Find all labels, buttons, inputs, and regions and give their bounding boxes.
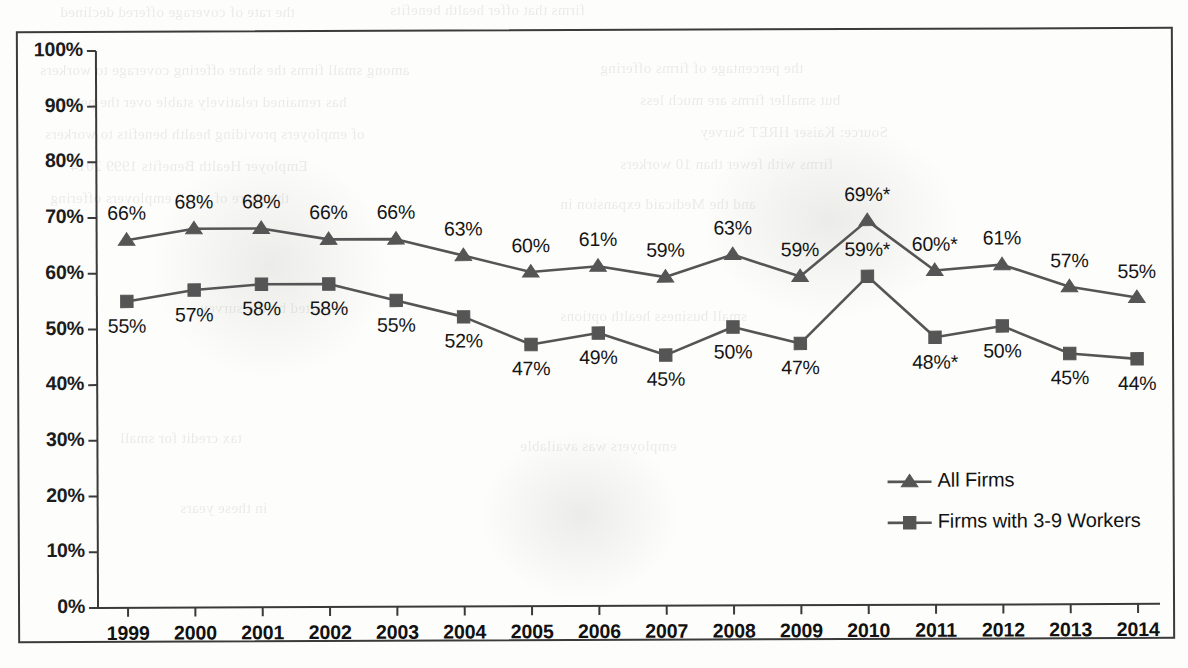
data-point-label: 60% [493, 234, 569, 257]
data-point-label: 63% [425, 217, 501, 240]
x-axis-label: 2009 [764, 619, 838, 642]
x-axis-label: 2002 [293, 621, 367, 644]
data-point-marker [994, 257, 1011, 270]
data-point-label: 47% [493, 357, 569, 380]
data-point-marker [1131, 353, 1143, 365]
y-axis-label: 50% [4, 316, 84, 339]
legend-label-2: Firms with 3-9 Workers [938, 509, 1141, 533]
data-point-label: 68% [156, 191, 232, 214]
data-point-label: 50% [695, 340, 771, 363]
x-axis-label: 2011 [899, 619, 973, 642]
data-point-marker [188, 284, 200, 296]
data-point-label: 60%* [897, 232, 973, 255]
data-point-label: 44% [1099, 372, 1175, 395]
data-point-label: 68% [223, 190, 299, 213]
data-point-label: 59% [627, 239, 703, 262]
legend-item-1 [888, 474, 932, 487]
x-axis-label: 2014 [1101, 618, 1175, 641]
data-point-marker [592, 327, 604, 339]
data-point-label: 58% [291, 297, 367, 320]
data-point-label: 59%* [829, 238, 905, 261]
x-axis-label: 2008 [697, 619, 771, 642]
data-point-label: 57% [156, 303, 232, 326]
data-point-marker [590, 259, 607, 272]
data-point-label: 66% [358, 201, 434, 224]
x-axis-label: 2012 [966, 618, 1040, 641]
data-point-marker [457, 311, 469, 323]
data-point-marker [255, 278, 267, 290]
data-point-marker [727, 321, 739, 333]
data-point-label: 59% [762, 238, 838, 261]
x-axis-label: 2006 [562, 620, 636, 643]
y-axis-label: 70% [3, 205, 83, 228]
data-point-marker [1064, 347, 1076, 359]
data-point-label: 45% [628, 368, 704, 391]
data-point-marker [660, 349, 672, 361]
y-axis-label: 30% [4, 428, 84, 451]
x-axis-label: 2000 [158, 621, 232, 644]
data-point-marker [859, 213, 876, 226]
data-point-marker [390, 294, 402, 306]
y-axis-label: 90% [3, 94, 83, 117]
data-point-label: 63% [695, 216, 771, 239]
legend-label-1: All Firms [938, 468, 1015, 491]
chart-svg [18, 29, 1173, 641]
chart-frame: 100%90%80%70%60%50%40%30%20%10%0%1999200… [16, 27, 1175, 643]
data-point-label: 52% [426, 330, 502, 353]
y-axis-label: 40% [4, 372, 84, 395]
data-point-label: 66% [88, 202, 164, 225]
data-point-marker [724, 247, 741, 260]
data-point-marker [929, 331, 941, 343]
x-axis-label: 2005 [495, 620, 569, 643]
x-axis-label: 2001 [226, 621, 300, 644]
plot-area: 100%90%80%70%60%50%40%30%20%10%0%1999200… [18, 29, 1173, 641]
x-axis-label: 2003 [360, 621, 434, 644]
data-point-marker [861, 270, 873, 282]
x-axis-label: 2004 [428, 620, 502, 643]
data-point-label: 55% [89, 314, 165, 337]
data-point-label: 61% [560, 228, 636, 251]
data-point-marker [525, 338, 537, 350]
x-axis-label: 2007 [630, 620, 704, 643]
data-point-label: 61% [964, 227, 1040, 250]
data-point-label: 55% [358, 313, 434, 336]
y-axis-label: 20% [5, 484, 85, 507]
data-point-label: 50% [964, 339, 1040, 362]
x-axis-label: 1999 [91, 622, 165, 645]
y-axis-label: 80% [3, 149, 83, 172]
legend-item-2 [888, 517, 932, 530]
data-point-label: 48%* [897, 350, 973, 373]
y-axis-label: 0% [5, 595, 85, 618]
data-point-label: 69%* [829, 182, 905, 205]
data-point-label: 58% [224, 297, 300, 320]
x-axis-label: 2013 [1034, 618, 1108, 641]
y-axis-label: 60% [4, 261, 84, 284]
data-point-label: 55% [1099, 259, 1175, 282]
data-point-marker [794, 337, 806, 349]
data-point-label: 47% [762, 356, 838, 379]
data-point-label: 45% [1032, 366, 1108, 389]
data-point-marker [996, 320, 1008, 332]
x-axis-label: 2010 [832, 619, 906, 642]
y-axis-label: 10% [5, 539, 85, 562]
data-point-marker [121, 295, 133, 307]
data-point-marker [323, 278, 335, 290]
data-point-label: 49% [560, 346, 636, 369]
y-axis-label: 100% [3, 38, 83, 61]
data-point-label: 66% [290, 201, 366, 224]
data-point-label: 57% [1031, 249, 1107, 272]
